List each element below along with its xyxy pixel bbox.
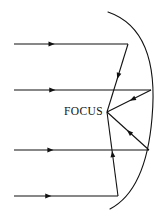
incoming-ray-4-arrowhead-icon <box>45 194 51 199</box>
incoming-ray-2-arrowhead-icon <box>49 88 55 93</box>
mirror-group <box>108 12 153 209</box>
incoming-ray-1 <box>14 42 128 47</box>
reflected-ray-4 <box>107 112 118 196</box>
incoming-ray-1-arrowhead-icon <box>49 42 55 47</box>
diagram-canvas: FOCUS <box>0 0 166 219</box>
reflected-ray-2-arrowhead-icon <box>130 96 137 101</box>
reflected-ray-2-line <box>107 90 151 112</box>
reflected-ray-1 <box>107 44 128 112</box>
reflected-rays-group <box>107 44 151 196</box>
incoming-rays-group <box>14 42 151 199</box>
reflected-ray-4-arrowhead-icon <box>111 151 116 157</box>
focus-label: FOCUS <box>64 105 103 117</box>
incoming-ray-2 <box>14 88 151 93</box>
reflected-ray-3 <box>107 112 149 150</box>
incoming-ray-3-arrowhead-icon <box>47 148 53 153</box>
reflected-ray-1-arrowhead-icon <box>117 72 122 79</box>
incoming-ray-4 <box>14 194 118 199</box>
reflected-ray-2 <box>107 90 151 112</box>
parabola-mirror-icon <box>108 12 153 209</box>
parabolic-mirror-diagram: FOCUS <box>0 0 166 219</box>
incoming-ray-3 <box>14 148 149 153</box>
